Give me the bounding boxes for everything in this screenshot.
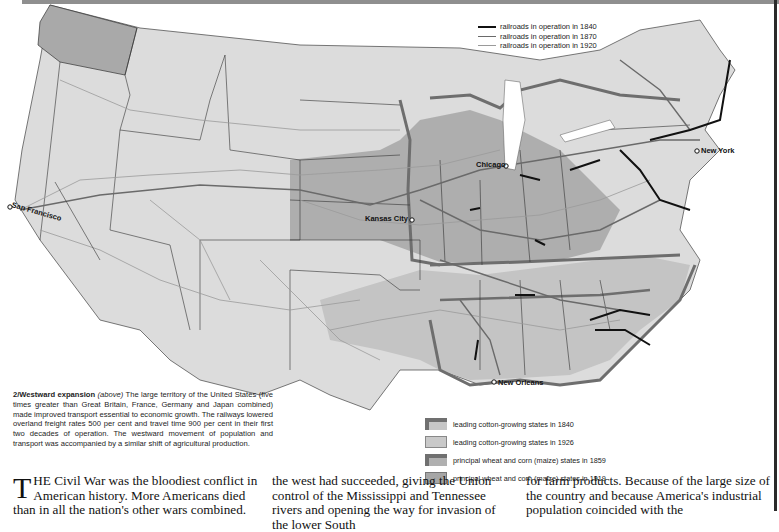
caption-heading: 2/Westward expansion: [13, 390, 95, 399]
legend-swatch-cotton-1840: [425, 418, 447, 430]
legend-label-wheat-1859: principal wheat and corn (maize) states …: [453, 456, 606, 465]
legend-label-1870: railroads in operation in 1870: [500, 32, 597, 42]
legend-label-1840: railroads in operation in 1840: [500, 22, 597, 32]
legend-line-1840: [478, 26, 496, 28]
map-caption: 2/Westward expansion (above) The large t…: [13, 390, 273, 449]
article-column-3: for farm products. Because of the large …: [526, 474, 771, 518]
legend-row-cotton-1840: leading cotton-growing states in 1840: [425, 415, 606, 433]
legend-row-1920: railroads in operation in 1920: [478, 41, 597, 51]
legend-row-wheat-1859: principal wheat and corn (maize) states …: [425, 451, 606, 469]
article-column-2: the west had succeeded, giving the Union…: [272, 474, 512, 532]
legend-label-1920: railroads in operation in 1920: [500, 41, 597, 51]
drop-cap: T: [13, 475, 31, 501]
caption-aside: (above): [98, 390, 124, 399]
legend-row-cotton-1926: leading cotton-growing states in 1926: [425, 433, 606, 451]
article-column-1: THE Civil War was the bloodiest conflict…: [13, 474, 258, 518]
legend-line-1870: [478, 36, 496, 37]
article-text-1: HE Civil War was the bloodiest conflict …: [13, 473, 257, 517]
city-label-new-york: New York: [701, 146, 735, 155]
city-label-kansas-city: Kansas City: [365, 214, 408, 223]
legend-row-1840: railroads in operation in 1840: [478, 22, 597, 32]
legend-label-cotton-1926: leading cotton-growing states in 1926: [453, 438, 574, 447]
legend-swatch-wheat-1859: [425, 454, 447, 466]
legend-row-1870: railroads in operation in 1870: [478, 32, 597, 42]
legend-line-1920: [478, 45, 496, 46]
railroad-legend: railroads in operation in 1840 railroads…: [478, 22, 597, 51]
city-label-chicago: Chicago: [476, 160, 506, 169]
city-label-new-orleans: New Orleans: [498, 378, 543, 387]
legend-label-cotton-1840: leading cotton-growing states in 1840: [453, 420, 574, 429]
legend-swatch-cotton-1926: [425, 436, 447, 448]
